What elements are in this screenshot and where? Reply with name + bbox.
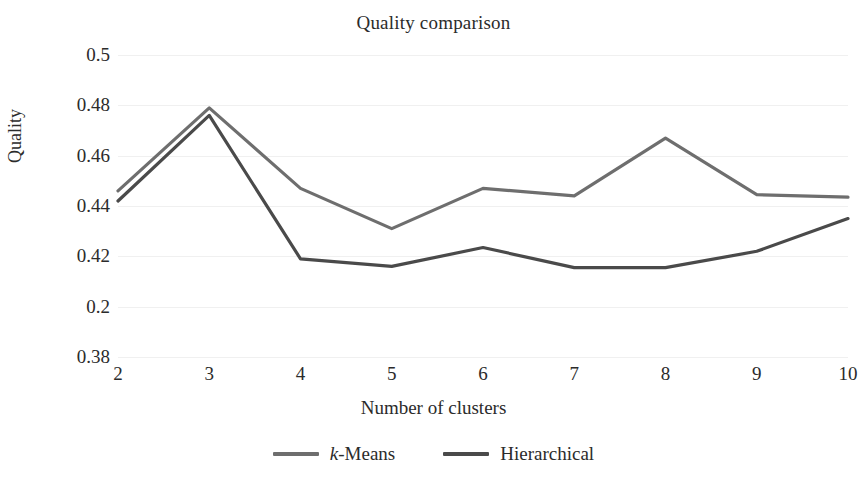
x-axis-tick-labels: 2345678910 [118,363,848,391]
x-axis-tick-label: 4 [296,363,306,385]
y-axis-tick-label: 0.5 [86,44,110,66]
x-axis-tick-label: 6 [478,363,488,385]
x-axis-tick-label: 8 [661,363,671,385]
y-axis-tick-label: 0.48 [77,94,110,116]
plot-area [118,55,848,357]
y-axis-tick-label: 0.42 [77,245,110,267]
x-axis-tick-label: 5 [387,363,397,385]
x-axis-tick-label: 10 [839,363,858,385]
y-axis-title: Quality [5,109,26,163]
y-axis-tick-label: 0.46 [77,145,110,167]
legend-color-swatch [443,452,489,456]
x-axis-tick-label: 3 [205,363,215,385]
series-line [118,108,848,229]
x-axis-tick-label: 2 [113,363,123,385]
chart-title: Quality comparison [0,12,867,34]
series-lines [118,55,848,357]
legend-color-swatch [273,452,319,456]
legend-entry[interactable]: k-Means [273,443,395,465]
legend-label: k-Means [330,443,395,465]
chart-legend: k-MeansHierarchical [0,443,867,465]
y-axis-tick-label: 0.44 [77,195,110,217]
y-axis-tick-label: 0.2 [86,296,110,318]
y-axis-tick-label: 0.38 [77,346,110,368]
series-line [118,115,848,267]
legend-label: Hierarchical [500,443,594,465]
gridline [118,357,848,358]
legend-entry[interactable]: Hierarchical [443,443,594,465]
x-axis-tick-label: 7 [570,363,580,385]
chart-figure: Quality comparison Quality 0.50.480.460.… [0,0,867,497]
x-axis-tick-label: 9 [752,363,762,385]
y-axis-tick-labels: 0.50.480.460.440.420.20.38 [40,55,110,357]
x-axis-title: Number of clusters [0,397,867,419]
